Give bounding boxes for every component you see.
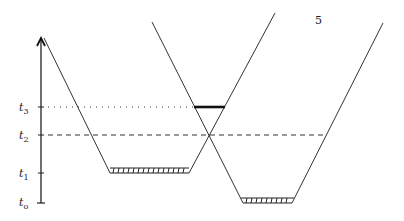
page-number: 5 <box>315 14 322 27</box>
label-t0: to <box>19 196 28 211</box>
label-t2: t2 <box>19 129 29 144</box>
first-funnel-right-edge <box>189 13 275 173</box>
time-diagram: t3 t2 t1 to <box>0 0 404 221</box>
first-floor-hatch <box>110 168 189 173</box>
second-funnel-left-edge <box>152 22 243 203</box>
label-t3: t3 <box>19 101 29 116</box>
second-funnel-right-edge <box>292 23 383 203</box>
label-t1: t1 <box>19 167 29 182</box>
first-funnel-left-edge <box>44 38 110 173</box>
second-funnel <box>152 22 383 203</box>
time-axis <box>37 38 45 203</box>
second-floor-hatch <box>241 198 294 203</box>
